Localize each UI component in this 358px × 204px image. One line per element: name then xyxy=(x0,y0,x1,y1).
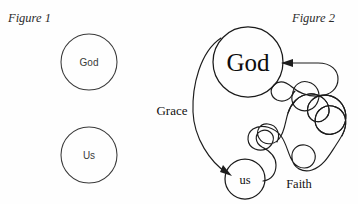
figure-2-caption: Figure 2 xyxy=(291,11,335,25)
grace-arrow-path xyxy=(193,38,227,173)
figure-2-group: Figure 2 Grace Faith G xyxy=(156,11,345,199)
faith-label: Faith xyxy=(286,177,312,191)
figure-1-us-node: Us xyxy=(61,127,117,183)
grace-edge: Grace xyxy=(156,38,232,176)
figure-1-god-node: God xyxy=(61,34,117,90)
us-label-fig1: Us xyxy=(83,150,95,161)
grace-label: Grace xyxy=(156,103,187,118)
figures-svg: Figure 1 God Us Figure 2 Grace xyxy=(0,0,358,204)
figure-1-group: Figure 1 God Us xyxy=(7,11,117,183)
faith-tangle-path-mid xyxy=(288,94,346,136)
figure-2-us-node: us xyxy=(225,159,265,199)
figure-1-caption: Figure 1 xyxy=(7,11,51,25)
diagram-canvas: Figure 1 God Us Figure 2 Grace xyxy=(0,0,358,204)
faith-edge: Faith xyxy=(248,59,346,191)
us-label-fig2: us xyxy=(239,173,250,187)
god-label-fig2: God xyxy=(226,49,270,76)
figure-2-god-node: God xyxy=(213,27,283,97)
faith-tangle-path-lower xyxy=(248,94,346,181)
god-label-fig1: God xyxy=(80,57,99,68)
